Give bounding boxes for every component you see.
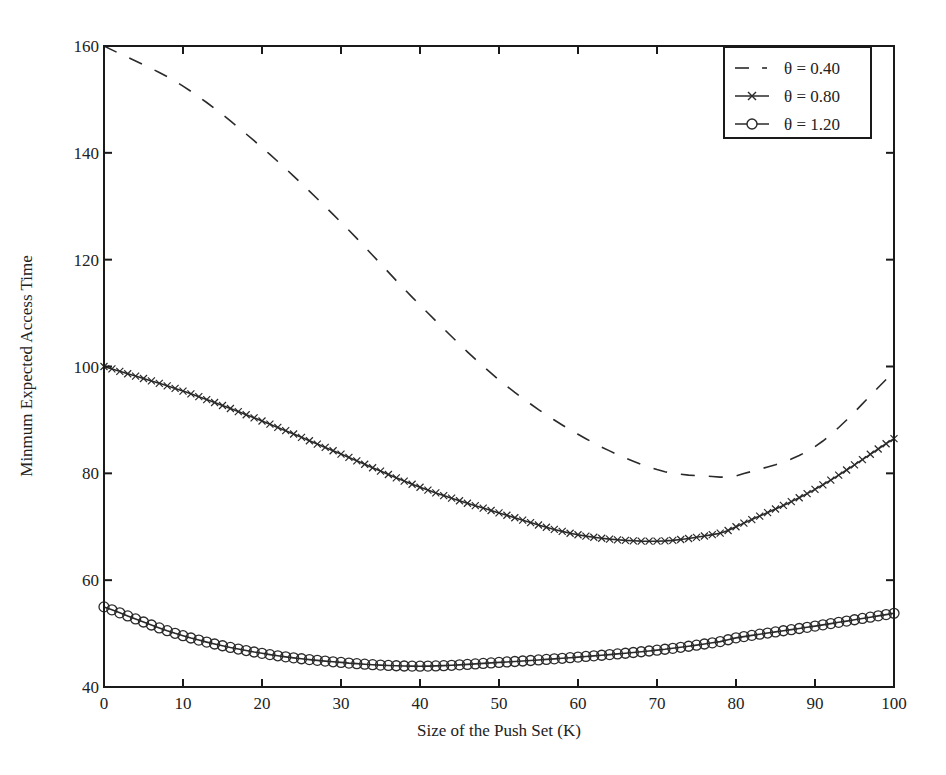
x-marker-icon <box>859 456 866 463</box>
x-marker-icon <box>756 513 763 520</box>
x-marker-icon <box>417 484 424 491</box>
x-marker-icon <box>361 461 368 468</box>
x-axis-title: Size of the Push Set (K) <box>417 721 581 740</box>
y-tick-label: 120 <box>74 251 100 270</box>
legend-label: θ = 1.20 <box>784 115 840 134</box>
x-marker-icon <box>424 487 431 494</box>
x-tick-label: 100 <box>881 694 907 713</box>
x-marker-icon <box>345 454 352 461</box>
x-marker-icon <box>195 393 202 400</box>
x-marker-icon <box>827 477 834 484</box>
y-axis-title: Minmum Expected Access Time <box>17 255 36 476</box>
legend-label: θ = 0.80 <box>784 87 840 106</box>
x-marker-icon <box>867 451 874 458</box>
x-marker-icon <box>740 520 747 527</box>
x-tick-label: 60 <box>570 694 587 713</box>
x-marker-icon <box>235 408 242 415</box>
x-marker-icon <box>251 414 258 421</box>
x-tick-label: 30 <box>333 694 350 713</box>
x-tick-label: 40 <box>412 694 429 713</box>
circle-marker-icon <box>747 119 757 129</box>
x-marker-icon <box>306 437 313 444</box>
y-tick-label: 160 <box>74 37 100 56</box>
x-marker-icon <box>796 494 803 501</box>
y-tick-label: 60 <box>82 571 99 590</box>
x-marker-icon <box>385 471 392 478</box>
x-marker-icon <box>764 509 771 516</box>
x-marker-icon <box>259 417 266 424</box>
x-marker-icon <box>211 399 218 406</box>
x-axis-ticks: 0102030405060708090100 <box>100 46 907 713</box>
x-marker-icon <box>733 523 740 530</box>
x-marker-icon <box>748 516 755 523</box>
x-marker-icon <box>330 447 337 454</box>
x-marker-icon <box>377 468 384 475</box>
x-marker-icon <box>338 451 345 458</box>
series-line <box>104 367 894 542</box>
line-chart: 0102030405060708090100 40608010012014016… <box>0 0 946 775</box>
x-marker-icon <box>432 489 439 496</box>
x-tick-label: 10 <box>175 694 192 713</box>
x-marker-icon <box>772 506 779 513</box>
series-2 <box>101 363 898 545</box>
x-marker-icon <box>883 440 890 447</box>
x-marker-icon <box>314 441 321 448</box>
legend: θ = 0.40θ = 0.80θ = 1.20 <box>724 47 871 138</box>
x-marker-icon <box>843 467 850 474</box>
x-marker-icon <box>393 474 400 481</box>
x-marker-icon <box>274 424 281 431</box>
x-tick-label: 0 <box>100 694 109 713</box>
x-marker-icon <box>409 481 416 488</box>
x-marker-icon <box>804 490 811 497</box>
y-tick-label: 40 <box>82 678 99 697</box>
x-tick-label: 50 <box>491 694 508 713</box>
plot-frame <box>104 46 894 687</box>
y-tick-label: 140 <box>74 144 100 163</box>
x-marker-icon <box>812 486 819 493</box>
legend-label: θ = 0.40 <box>784 59 840 78</box>
x-tick-label: 20 <box>254 694 271 713</box>
x-marker-icon <box>819 481 826 488</box>
x-marker-icon <box>353 457 360 464</box>
x-marker-icon <box>788 498 795 505</box>
x-tick-label: 90 <box>807 694 824 713</box>
x-marker-icon <box>298 434 305 441</box>
plot-curves <box>99 46 899 671</box>
x-marker-icon <box>401 478 408 485</box>
y-tick-label: 100 <box>74 358 100 377</box>
x-marker-icon <box>875 445 882 452</box>
x-marker-icon <box>835 472 842 479</box>
x-marker-icon <box>290 431 297 438</box>
x-marker-icon <box>227 405 234 412</box>
x-tick-label: 80 <box>728 694 745 713</box>
series-3 <box>99 602 899 671</box>
x-tick-label: 70 <box>649 694 666 713</box>
y-tick-label: 80 <box>82 464 99 483</box>
x-marker-icon <box>187 390 194 397</box>
x-marker-icon <box>780 502 787 509</box>
x-marker-icon <box>322 444 329 451</box>
x-marker-icon <box>851 461 858 468</box>
x-marker-icon <box>266 421 273 428</box>
x-marker-icon <box>219 402 226 409</box>
x-marker-icon <box>369 464 376 471</box>
x-marker-icon <box>282 427 289 434</box>
x-marker-icon <box>243 411 250 418</box>
